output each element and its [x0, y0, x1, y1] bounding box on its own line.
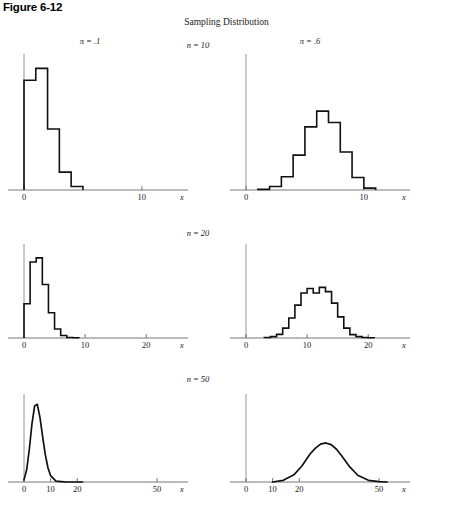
- svg-text:10: 10: [303, 340, 312, 350]
- svg-text:50: 50: [375, 484, 384, 494]
- row-label-n-50: n = 50: [172, 374, 224, 384]
- plot-n20-pi1: 01020x: [4, 238, 204, 356]
- column-label-pi-6: π = .6: [288, 36, 332, 46]
- svg-text:0: 0: [22, 340, 26, 350]
- svg-text:20: 20: [73, 484, 82, 494]
- svg-text:50: 50: [153, 484, 162, 494]
- svg-text:x: x: [179, 484, 184, 494]
- svg-text:0: 0: [244, 340, 248, 350]
- svg-text:0: 0: [244, 192, 248, 202]
- svg-text:x: x: [401, 192, 406, 202]
- svg-text:x: x: [401, 484, 406, 494]
- svg-text:10: 10: [46, 484, 55, 494]
- plot-n50-pi1: 0102050x: [4, 388, 204, 500]
- svg-text:20: 20: [364, 340, 373, 350]
- svg-text:20: 20: [295, 484, 304, 494]
- column-label-pi-1: π = .1: [68, 36, 112, 46]
- svg-text:0: 0: [22, 192, 26, 202]
- svg-text:0: 0: [244, 484, 248, 494]
- svg-text:10: 10: [138, 192, 147, 202]
- plot-n50-pi6: 0102050x: [226, 388, 426, 500]
- svg-text:0: 0: [22, 484, 26, 494]
- svg-text:10: 10: [268, 484, 277, 494]
- plot-n10-pi6: 010x: [226, 48, 426, 208]
- svg-text:10: 10: [360, 192, 369, 202]
- svg-text:x: x: [401, 340, 406, 350]
- figure-title: Sampling Distribution: [0, 17, 453, 27]
- svg-text:10: 10: [81, 340, 90, 350]
- svg-text:x: x: [179, 192, 184, 202]
- figure-number: Figure 6-12: [3, 1, 62, 13]
- svg-text:20: 20: [142, 340, 151, 350]
- row-label-n-20: n = 20: [172, 228, 224, 238]
- svg-text:x: x: [179, 340, 184, 350]
- plot-n10-pi1: 010x: [4, 48, 204, 208]
- plot-n20-pi6: 01020x: [226, 238, 426, 356]
